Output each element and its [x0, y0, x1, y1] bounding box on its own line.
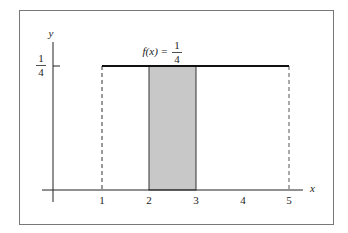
x-axis-label: x	[309, 182, 315, 194]
y-axis-label: y	[48, 27, 54, 39]
y-tick-denominator: 4	[38, 66, 44, 78]
x-tick-2: 2	[146, 194, 152, 206]
x-tick-4: 4	[240, 194, 246, 206]
uniform-distribution-chart: y x 1 4 f(x) = 1 4 1 2 3 4 5	[0, 0, 348, 233]
function-label-lhs: f(x) =	[143, 45, 168, 58]
function-label-denominator: 4	[174, 53, 180, 65]
shaded-probability-region	[149, 66, 196, 190]
x-tick-1: 1	[99, 194, 105, 206]
x-tick-5: 5	[286, 194, 292, 206]
function-label-numerator: 1	[174, 39, 180, 51]
x-tick-3: 3	[193, 194, 199, 206]
y-tick-numerator: 1	[38, 52, 44, 64]
